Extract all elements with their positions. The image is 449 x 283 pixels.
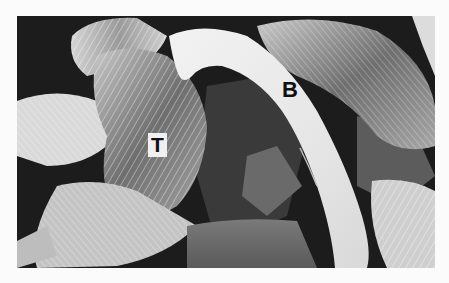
micrograph: T B xyxy=(17,16,435,268)
label-b: B xyxy=(282,79,298,101)
label-t: T xyxy=(148,133,167,157)
micrograph-image xyxy=(17,16,435,268)
